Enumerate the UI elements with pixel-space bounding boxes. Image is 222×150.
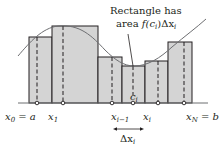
rectangle-6 xyxy=(168,42,192,103)
riemann-sum-diagram: Rectangle has area f(ci)Δxi ci x0 = a x1… xyxy=(0,0,222,150)
rectangle-1 xyxy=(29,37,52,103)
label-xi-minus-1: xi−1 xyxy=(111,111,129,124)
rectangle-5 xyxy=(145,61,168,103)
rectangle-2 xyxy=(52,26,98,103)
annotation-line2: area f(ci)Δxi xyxy=(116,18,176,31)
label-xi: xi xyxy=(143,111,151,124)
label-x1: x1 xyxy=(48,111,58,124)
label-xN-b: xN = b xyxy=(186,111,219,124)
annotation-pointer xyxy=(128,34,133,66)
annotation-line1: Rectangle has xyxy=(110,5,182,16)
delta-x-arrow xyxy=(113,127,144,130)
rectangle-3 xyxy=(98,57,122,103)
rectangles xyxy=(29,26,192,103)
label-delta-xi: Δxi xyxy=(120,133,135,146)
label-x0-a: x0 = a xyxy=(5,111,36,124)
